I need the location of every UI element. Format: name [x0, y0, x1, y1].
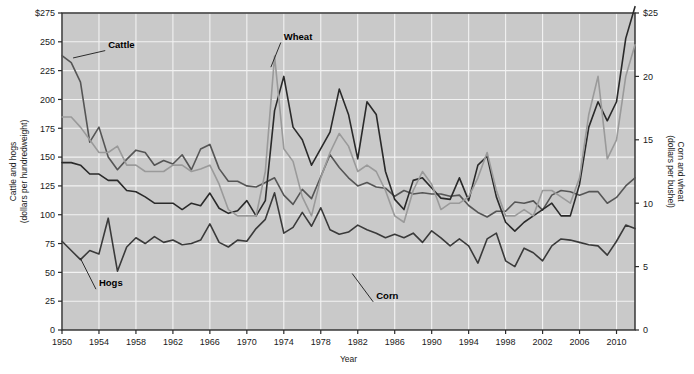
- series-label-wheat: Wheat: [284, 31, 313, 42]
- y-tick-label-left: 150: [40, 152, 55, 162]
- y-axis-left-title-line2: (dollars per hundredweight): [19, 120, 29, 224]
- x-tick-label: 2002: [533, 337, 553, 347]
- y-tick-label-left: 200: [40, 95, 55, 105]
- x-tick-label: 1958: [126, 337, 146, 347]
- series-label-cattle: Cattle: [108, 39, 134, 50]
- y-tick-label-right: 0: [643, 325, 648, 335]
- y-tick-label-left: 125: [40, 181, 55, 191]
- y-tick-label-right: 20: [643, 72, 653, 82]
- y-axis-right-title-line1: Corn and wheat: [676, 141, 686, 202]
- y-tick-label-left: 100: [40, 210, 55, 220]
- x-tick-label: 1950: [52, 337, 72, 347]
- x-tick-label: 1978: [311, 337, 331, 347]
- y-tick-label-left: $275: [35, 8, 55, 18]
- y-tick-label-left: 225: [40, 66, 55, 76]
- y-axis-right-title-line2: (dollars per bushel): [666, 135, 676, 208]
- y-tick-label-left: 75: [45, 239, 55, 249]
- y-tick-label-right: 15: [643, 135, 653, 145]
- x-tick-label: 1990: [422, 337, 442, 347]
- x-tick-label: 1982: [348, 337, 368, 347]
- x-tick-label: 1970: [237, 337, 257, 347]
- x-tick-label: 2006: [570, 337, 590, 347]
- y-tick-label-left: 25: [45, 296, 55, 306]
- chart-root: 1950195419581962196619701974197819821986…: [0, 0, 694, 374]
- x-axis-title: Year: [340, 354, 357, 364]
- y-tick-label-left: 175: [40, 124, 55, 134]
- x-tick-label: 1954: [89, 337, 109, 347]
- y-tick-label-left: 250: [40, 37, 55, 47]
- x-tick-label: 1994: [459, 337, 479, 347]
- y-tick-label-left: 0: [50, 325, 55, 335]
- y-tick-label-right: 10: [643, 199, 653, 209]
- y-tick-label-left: 50: [45, 268, 55, 278]
- x-tick-label: 1998: [496, 337, 516, 347]
- x-tick-label: 2010: [607, 337, 627, 347]
- y-tick-label-right: $25: [643, 8, 658, 18]
- y-tick-label-right: 5: [643, 262, 648, 272]
- x-tick-label: 1962: [163, 337, 183, 347]
- series-label-corn: Corn: [376, 290, 398, 301]
- x-tick-label: 1966: [200, 337, 220, 347]
- y-axis-left-title-line1: Cattle and hogs: [8, 142, 18, 202]
- price-trend-line-chart: 1950195419581962196619701974197819821986…: [0, 0, 694, 374]
- x-tick-label: 1974: [274, 337, 294, 347]
- x-tick-label: 1986: [385, 337, 405, 347]
- series-label-hogs: Hogs: [99, 277, 123, 288]
